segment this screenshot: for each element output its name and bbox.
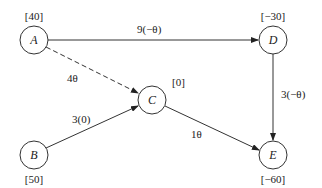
node-b-value: [50]: [25, 173, 43, 185]
node-d: D [−30]: [259, 10, 287, 54]
node-c-value: [0]: [172, 76, 185, 88]
node-b: B [50]: [20, 141, 48, 185]
edge-label-b-c: 3(0): [72, 113, 91, 126]
node-d-label: D: [268, 33, 278, 47]
node-e-label: E: [268, 148, 277, 162]
edge-label-a-c: 4θ: [67, 72, 78, 84]
node-c: C [0]: [138, 76, 185, 114]
edge-c-e: [165, 106, 259, 150]
node-e-value: [−60]: [261, 173, 286, 185]
edge-label-c-e: 1θ: [191, 128, 202, 140]
node-a-label: A: [29, 33, 38, 47]
node-e: E [−60]: [259, 141, 287, 185]
node-d-value: [−30]: [261, 10, 286, 22]
edge-a-c: [46, 47, 138, 93]
node-b-label: B: [30, 148, 38, 162]
network-diagram: 9(−θ) 4θ 3(0) 1θ 3(−θ) A [40] B [50] C […: [0, 0, 322, 188]
node-a: A [40]: [20, 10, 48, 54]
edge-b-c: [46, 106, 138, 148]
node-c-label: C: [148, 93, 157, 107]
node-a-value: [40]: [25, 10, 43, 22]
edge-label-a-d: 9(−θ): [137, 23, 162, 36]
edge-label-d-e: 3(−θ): [281, 88, 306, 101]
